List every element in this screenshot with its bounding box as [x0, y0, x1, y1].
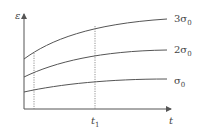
- y-axis-label: ε: [15, 11, 20, 21]
- strain-time-diagram: ε t t1 3σ0 2σ0 σ0: [0, 0, 202, 132]
- diagram-svg: [0, 0, 202, 132]
- curve-2sigma0: [24, 50, 167, 77]
- x-axis-label: t: [169, 116, 173, 126]
- curve-label-2sigma0: 2σ0: [174, 45, 192, 59]
- curve-sigma0: [24, 79, 167, 92]
- curve-label-3sigma0: 3σ0: [174, 14, 192, 28]
- t1-label: t1: [91, 116, 100, 130]
- curve-label-sigma0: σ0: [174, 76, 185, 90]
- curve-3sigma0: [24, 19, 167, 59]
